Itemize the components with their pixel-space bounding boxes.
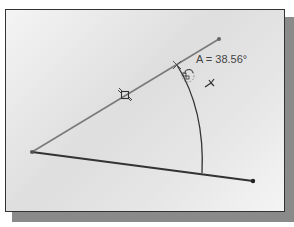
dimension-tool-icon: [205, 79, 214, 87]
upper-line-endpoint[interactable]: [217, 37, 221, 41]
cursor-crosshair-icon: [173, 61, 181, 69]
lower-line-endpoint[interactable]: [251, 179, 255, 183]
sketch-geometry: [0, 0, 294, 227]
upper-line[interactable]: [32, 39, 219, 152]
vertex-point[interactable]: [30, 150, 34, 154]
angle-dimension-label[interactable]: A = 38.56°: [196, 53, 247, 65]
lower-line[interactable]: [32, 152, 253, 181]
angle-dimension-cursor-icon: [182, 69, 194, 82]
angle-arc[interactable]: [177, 65, 202, 173]
